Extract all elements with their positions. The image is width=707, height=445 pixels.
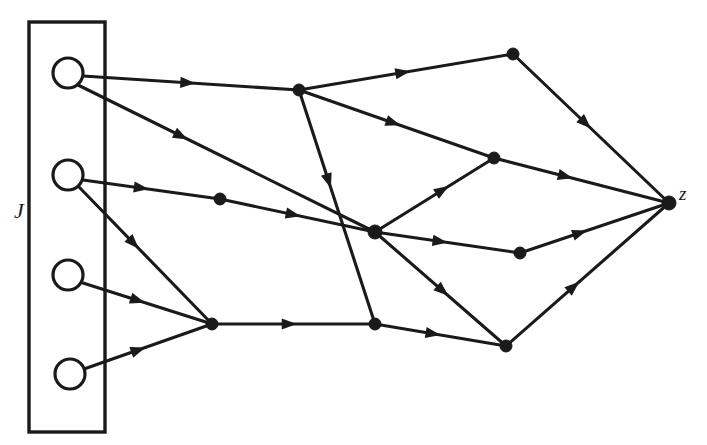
edge-n4-to-z [494, 158, 669, 203]
nodes-layer [53, 48, 676, 389]
edge-line [506, 203, 669, 346]
edge-line [375, 158, 494, 232]
edge-arrowhead [571, 230, 587, 241]
edge-arrowhead [432, 235, 448, 246]
edge-n3-to-z [513, 54, 669, 203]
internal-node-n9 [500, 340, 512, 352]
internal-node-n6 [206, 318, 218, 330]
source-node-s4 [55, 359, 85, 389]
edge-line [84, 324, 212, 369]
internal-node-n5 [368, 225, 382, 239]
internal-node-n2 [214, 193, 226, 205]
edge-arrowhead [557, 169, 573, 180]
internal-node-n7 [369, 318, 381, 330]
edge-n5-to-n4 [375, 158, 494, 232]
edge-s4-to-n6 [84, 324, 212, 369]
edge-s1-to-n1 [83, 76, 299, 90]
source-node-s3 [53, 260, 83, 290]
edge-n6-to-n7 [212, 318, 375, 329]
edge-arrowhead [172, 128, 188, 140]
edge-n2-to-n5 [220, 199, 375, 232]
edge-arrowhead [425, 327, 441, 338]
network-diagram-figure: Jz [0, 0, 707, 445]
edge-arrowhead [321, 172, 332, 188]
edge-line [299, 90, 375, 324]
internal-node-n1 [293, 84, 305, 96]
output-node-label-z: z [678, 183, 687, 204]
edge-s1-to-n5 [78, 85, 375, 232]
edge-arrowhead [433, 186, 449, 199]
source-node-s2 [53, 160, 83, 190]
edge-n1-to-n3 [299, 54, 513, 90]
edge-n1-to-n4 [299, 90, 494, 158]
internal-node-n3 [507, 48, 519, 60]
edge-n1-to-n7 [299, 90, 375, 324]
edge-arrowhead [129, 293, 145, 304]
edge-line [78, 85, 375, 232]
edge-line [520, 203, 669, 253]
internal-node-n4 [488, 152, 500, 164]
edge-arrowhead [395, 68, 411, 79]
input-set-label-j: J [14, 198, 25, 223]
graph-canvas: Jz [0, 0, 707, 445]
edge-arrowhead [133, 182, 149, 193]
edge-line [494, 158, 669, 203]
edge-n9-to-z [506, 203, 669, 346]
edge-n8-to-z [520, 203, 669, 253]
edge-arrowhead [129, 347, 145, 358]
labels-layer: Jz [14, 183, 687, 223]
internal-node-n8 [514, 247, 526, 259]
edge-arrowhead [384, 115, 400, 126]
source-node-s1 [53, 58, 83, 88]
edge-arrowhead [180, 77, 195, 88]
edge-arrowhead [282, 318, 297, 329]
sink-node-z [662, 196, 676, 210]
